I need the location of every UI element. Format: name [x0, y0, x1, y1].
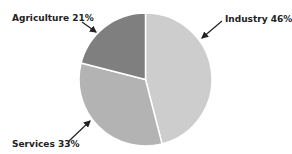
pie-slices	[79, 13, 212, 146]
agriculture-arrow	[82, 22, 96, 32]
services-arrow	[69, 121, 90, 141]
industry-label: Industry 46%	[225, 14, 292, 24]
pie-chart: Industry 46% Agriculture 21% Services 33…	[0, 0, 292, 154]
agriculture-label: Agriculture 21%	[12, 13, 94, 23]
industry-arrow	[202, 21, 222, 38]
services-label: Services 33%	[12, 139, 79, 149]
